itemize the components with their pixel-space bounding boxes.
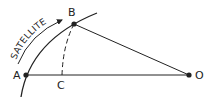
point-b: [71, 21, 76, 26]
satellite-orbit-diagram: SATELLITE A B C O: [0, 0, 216, 101]
point-a: [23, 72, 28, 77]
satellite-label: SATELLITE: [9, 16, 48, 61]
label-c: C: [57, 79, 65, 92]
label-a: A: [13, 69, 21, 82]
label-o: O: [195, 69, 204, 82]
label-b: B: [68, 6, 76, 19]
line-bo: [74, 24, 189, 75]
dashed-arc-bc: [62, 24, 74, 75]
point-o: [186, 72, 191, 77]
